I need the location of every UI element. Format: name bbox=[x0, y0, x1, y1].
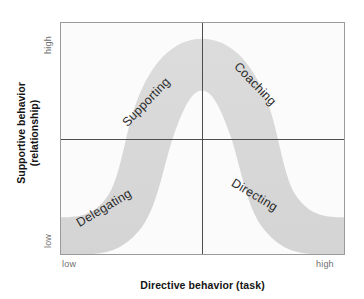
quadrant-divider-horizontal bbox=[61, 139, 345, 140]
x-axis-title: Directive behavior (task) bbox=[60, 279, 345, 291]
plot-area: Supporting Coaching Delegating Directing bbox=[60, 22, 345, 255]
y-axis-tick-high: high bbox=[43, 33, 53, 57]
x-axis-tick-low: low bbox=[62, 259, 76, 269]
y-axis-tick-low: low bbox=[43, 229, 53, 253]
y-axis-title: Supportive behavior (relationship) bbox=[15, 53, 41, 213]
situational-leadership-diagram: Supporting Coaching Delegating Directing… bbox=[0, 0, 364, 299]
y-axis-title-line1: Supportive behavior bbox=[15, 53, 28, 213]
y-axis-title-line2: (relationship) bbox=[28, 53, 41, 213]
x-axis-tick-high: high bbox=[316, 259, 334, 269]
